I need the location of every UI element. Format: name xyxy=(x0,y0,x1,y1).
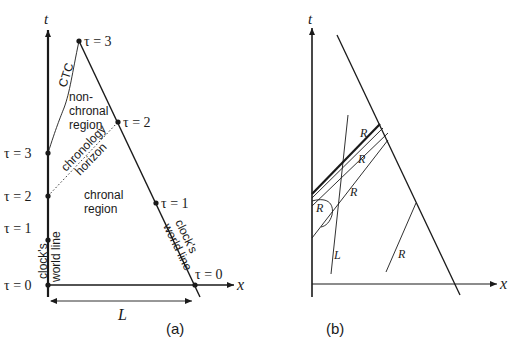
right-point-tau2 xyxy=(115,119,120,124)
left-tick-tau2: τ = 2 xyxy=(4,189,32,204)
x-axis-label: x xyxy=(236,276,244,293)
right-tick-tau2: τ = 2 xyxy=(123,115,151,130)
caption-a: (a) xyxy=(166,320,184,337)
panel-a: t x τ = 0 τ = 1 τ = 2 τ = 3 τ = 0 τ = 1 … xyxy=(4,11,244,337)
left-tick-tau3: τ = 3 xyxy=(4,146,32,161)
right-point-tau1 xyxy=(153,200,158,205)
ray-right xyxy=(386,203,416,272)
ray-label-4: R xyxy=(315,201,324,215)
length-label: L xyxy=(117,306,127,323)
right-tick-tau0: τ = 0 xyxy=(195,267,223,282)
left-point-tau0 xyxy=(45,282,50,287)
l-line-label: L xyxy=(333,248,341,262)
t-axis-label: t xyxy=(44,11,49,27)
left-tick-tau0: τ = 0 xyxy=(4,278,32,293)
svg-text:region: region xyxy=(84,202,117,216)
ray-parallel-1 xyxy=(312,128,383,198)
svg-text:chronal: chronal xyxy=(84,188,123,202)
caption-b: (b) xyxy=(326,320,344,337)
left-worldline-label: clock's world line xyxy=(36,231,63,283)
left-point-tau3 xyxy=(45,150,50,155)
ray-label-5: R xyxy=(397,247,406,261)
ray-label-1: R xyxy=(359,126,368,140)
svg-text:chronal: chronal xyxy=(69,104,108,118)
left-tick-tau1: τ = 1 xyxy=(4,221,32,236)
right-point-tau0 xyxy=(192,282,197,287)
svg-text:non-: non- xyxy=(69,90,93,104)
spacetime-diagram-figure: t x τ = 0 τ = 1 τ = 2 τ = 3 τ = 0 τ = 1 … xyxy=(0,0,520,350)
left-point-tau2 xyxy=(45,193,50,198)
svg-text:world line: world line xyxy=(49,231,63,283)
svg-text:clock's: clock's xyxy=(36,243,50,279)
x-axis-label-b: x xyxy=(499,275,507,292)
t-axis-label-b: t xyxy=(308,11,313,27)
ctc-label: CTC xyxy=(56,61,77,89)
ray-label-2: R xyxy=(357,152,366,166)
right-worldline-label: clock's world line xyxy=(160,217,201,273)
right-tick-tau3: τ = 3 xyxy=(84,34,112,49)
ray-label-3: R xyxy=(349,185,358,199)
right-tick-tau1: τ = 1 xyxy=(161,196,189,211)
chronal-region-label: chronal region xyxy=(84,188,123,216)
right-point-tau3 xyxy=(76,38,81,43)
panel-b: t x R R R R R L (b) xyxy=(308,11,507,337)
